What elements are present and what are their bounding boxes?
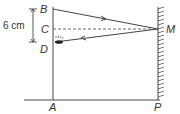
label-c: C: [41, 23, 49, 35]
eye-icon: [55, 36, 64, 44]
label-b: B: [40, 3, 47, 15]
label-d: D: [40, 43, 48, 55]
mirror-hatching: [158, 7, 164, 97]
mirror-diagram: 6 cm B C D M A P: [0, 0, 180, 114]
dimension-label: 6 cm: [3, 20, 25, 31]
label-p: P: [154, 101, 162, 113]
label-m: M: [166, 23, 176, 35]
label-a: A: [48, 101, 56, 113]
dimension-marker: [29, 9, 37, 42]
ray-m-to-d: [55, 29, 158, 42]
